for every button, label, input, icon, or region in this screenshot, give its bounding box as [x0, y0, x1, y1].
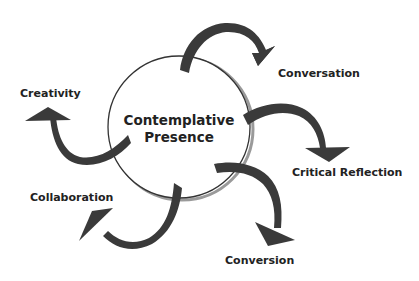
arrow-critical-reflection — [243, 104, 350, 162]
label-creativity: Creativity — [20, 87, 81, 100]
center-title-line2: Presence — [109, 129, 249, 146]
label-conversion: Conversion — [225, 254, 294, 267]
label-collaboration: Collaboration — [30, 191, 113, 204]
label-conversation: Conversation — [278, 67, 360, 80]
label-critical-reflection: Critical Reflection — [292, 166, 402, 179]
center-title: Contemplative Presence — [109, 112, 249, 146]
center-title-line1: Contemplative — [109, 112, 249, 129]
